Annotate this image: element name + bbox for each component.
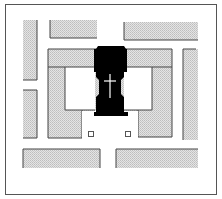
top-bar-right [124,22,198,40]
left-bar-lower [23,90,37,138]
bottom-bar-right [116,149,198,168]
right-bar [183,49,198,140]
square-marker-right [126,132,131,137]
right-wing-building [120,49,172,138]
left-wing-building [48,49,100,138]
plaza [95,112,125,142]
square-marker-left [89,132,94,137]
left-courtyard [65,67,95,110]
top-bar-left [50,20,97,38]
site-plan [0,0,222,199]
bottom-bar-left [23,149,100,168]
left-bar-upper [23,20,37,80]
right-courtyard [124,67,152,110]
